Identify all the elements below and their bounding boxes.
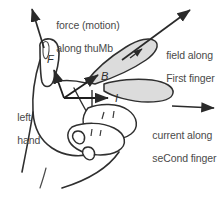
force-vector-symbol: F xyxy=(47,53,54,65)
field-label-line2: First finger xyxy=(166,72,214,84)
current-vector-symbol: I xyxy=(115,92,118,104)
vector-F-arrow xyxy=(54,70,64,98)
left-hand-label-line1: left xyxy=(17,111,31,123)
force-arrow-long xyxy=(32,9,44,48)
field-label: field along First finger xyxy=(155,38,215,96)
left-hand-label-line2: hand xyxy=(17,134,40,146)
force-label: force (motion) along thuMb xyxy=(45,8,120,66)
current-label-line2: seCond finger xyxy=(152,152,216,164)
flemings-left-hand-rule-diagram: force (motion) along thuMb field along F… xyxy=(0,0,223,206)
force-label-line2: along thuMb xyxy=(56,42,113,54)
fingertip-lower xyxy=(83,147,95,160)
wrist-crease xyxy=(40,168,46,188)
current-label-line1: current along xyxy=(152,129,212,141)
current-label: current along seCond finger xyxy=(141,118,216,176)
left-hand-label: left hand xyxy=(6,100,40,158)
current-arrow-long xyxy=(172,106,214,108)
field-label-line1: field along xyxy=(166,49,213,61)
force-label-line1: force (motion) xyxy=(56,19,119,31)
field-vector-symbol: B xyxy=(101,70,108,82)
vector-B-arrow xyxy=(64,75,98,98)
